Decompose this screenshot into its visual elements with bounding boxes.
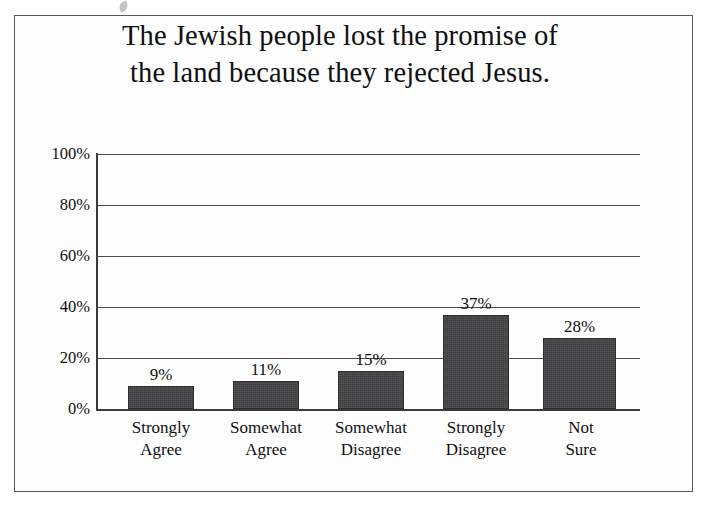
x-category-label-strongly-agree: Strongly Agree: [103, 417, 219, 461]
y-tick-label-60: 60%: [20, 246, 90, 266]
gridline-80: [96, 205, 640, 206]
y-tick-label-0: 0%: [20, 399, 90, 419]
chart-screenshot: The Jewish people lost the promise of th…: [0, 0, 706, 508]
bar-somewhat-agree[interactable]: [233, 381, 299, 409]
x-category-label-strongly-disagree: Strongly Disagree: [418, 417, 534, 461]
gridline-100: [96, 154, 640, 155]
y-tick-label-80: 80%: [20, 195, 90, 215]
y-tick-label-100: 100%: [20, 144, 90, 164]
y-tick-label-40: 40%: [20, 297, 90, 317]
y-tick-label-20: 20%: [20, 348, 90, 368]
scan-artifact-speck: [118, 0, 129, 13]
bar-not-sure[interactable]: [543, 338, 616, 409]
x-category-label-not-sure: Not Sure: [523, 417, 639, 461]
chart-title-line-2: the land because they rejected Jesus.: [20, 54, 660, 91]
bar-strongly-agree[interactable]: [128, 386, 194, 409]
x-category-label-somewhat-agree: Somewhat Agree: [208, 417, 324, 461]
x-category-label-somewhat-disagree: Somewhat Disagree: [313, 417, 429, 461]
bar-value-strongly-disagree: 37%: [443, 294, 509, 314]
bar-value-somewhat-agree: 11%: [233, 360, 299, 380]
x-axis-baseline: [96, 409, 640, 411]
chart-title: The Jewish people lost the promise of th…: [20, 17, 660, 91]
chart-title-line-1: The Jewish people lost the promise of: [20, 17, 660, 54]
bar-value-somewhat-disagree: 15%: [338, 350, 404, 370]
gridline-60: [96, 256, 640, 257]
y-axis-line: [96, 153, 98, 410]
plot-area: 9% 11% 15% 37% 28%: [96, 154, 640, 409]
bar-strongly-disagree[interactable]: [443, 315, 509, 409]
bar-value-strongly-agree: 9%: [128, 365, 194, 385]
bar-value-not-sure: 28%: [543, 317, 616, 337]
gridline-40: [96, 307, 640, 308]
bar-somewhat-disagree[interactable]: [338, 371, 404, 409]
